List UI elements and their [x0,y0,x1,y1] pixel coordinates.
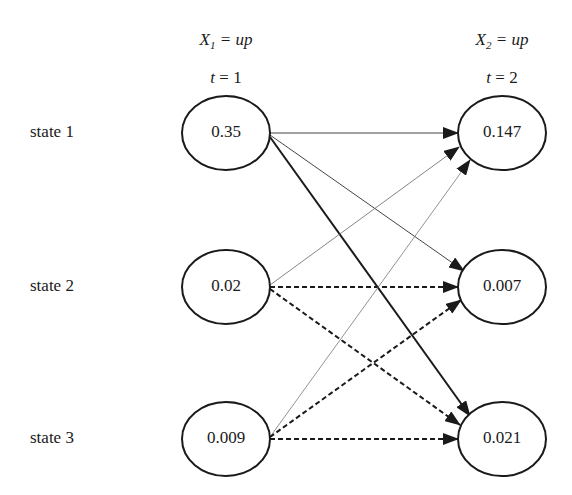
variable-subscript: 2 [486,39,492,51]
time-label-t2: t = 2 [442,68,562,88]
edge-s1-s2 [270,135,464,271]
node-value-t1-state1: 0.35 [182,122,270,142]
variable-value: = up [220,30,253,49]
edge-s1-s3 [270,137,470,416]
time-var: t [486,68,491,87]
variable-name: X [200,30,210,49]
time-label-t1: t = 1 [166,68,286,88]
state-label-3: state 3 [30,428,74,448]
time-value: = 2 [495,68,517,87]
edge-s2-s3 [270,289,460,425]
time-var: t [210,68,215,87]
column-header-x2: X2 = up [442,30,562,51]
variable-subscript: 1 [210,39,216,51]
node-value-t2-state1: 0.147 [458,122,546,142]
edge-s2-s1 [270,147,459,285]
edge-s3-s1 [270,160,470,437]
variable-value: = up [496,30,529,49]
node-value-t2-state2: 0.007 [458,276,546,296]
variable-name: X [476,30,486,49]
edge-s3-s2 [270,300,461,437]
node-value-t2-state3: 0.021 [458,428,546,448]
state-label-2: state 2 [30,276,74,296]
state-label-1: state 1 [30,122,74,142]
time-value: = 1 [219,68,241,87]
column-header-x1: X1 = up [166,30,286,51]
node-value-t1-state3: 0.009 [182,428,270,448]
node-value-t1-state2: 0.02 [182,276,270,296]
